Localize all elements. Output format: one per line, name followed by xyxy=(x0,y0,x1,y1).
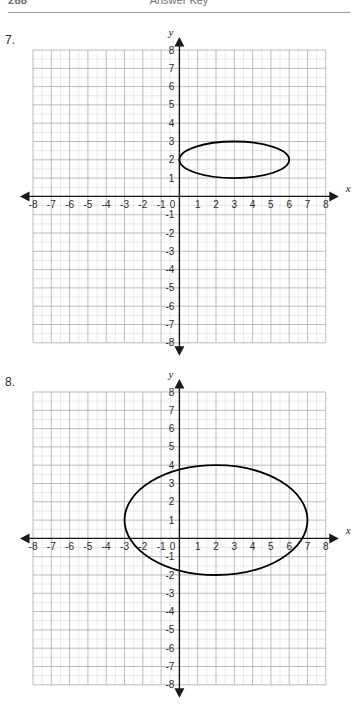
y-tick-label: -8 xyxy=(165,337,174,348)
x-tick-label: -5 xyxy=(83,541,92,552)
y-tick-label: -7 xyxy=(165,661,174,672)
running-header: 288 Answer Key xyxy=(0,0,358,16)
y-tick-label: 6 xyxy=(169,423,175,434)
x-tick-label: -2 xyxy=(138,199,147,210)
x-tick-label: -4 xyxy=(102,541,111,552)
x-tick-label: -8 xyxy=(29,199,38,210)
x-tick-label: 4 xyxy=(250,541,256,552)
y-tick-label: -8 xyxy=(165,679,174,690)
y-tick-label: 8 xyxy=(169,45,175,56)
x-tick-label: 1 xyxy=(195,541,201,552)
y-tick-label: 4 xyxy=(169,460,175,471)
x-tick-label: -3 xyxy=(120,541,129,552)
y-tick-label: -3 xyxy=(165,246,174,257)
y-tick-label: 7 xyxy=(169,63,175,74)
y-tick-label: -4 xyxy=(165,606,174,617)
x-tick-label: 5 xyxy=(268,541,274,552)
x-tick-label: -7 xyxy=(47,541,56,552)
y-tick-label: 3 xyxy=(169,478,175,489)
x-tick-label: -8 xyxy=(29,541,38,552)
y-tick-label: -1 xyxy=(165,551,174,562)
x-tick-label: 8 xyxy=(323,199,329,210)
y-tick-label: 5 xyxy=(169,99,175,110)
x-tick-label: 8 xyxy=(323,541,329,552)
y-tick-label: -6 xyxy=(165,643,174,654)
x-axis-label: x xyxy=(345,524,351,536)
y-tick-label: 8 xyxy=(169,387,175,398)
answer-key-page: 288 Answer Key 7. -8-7-6-5-4-3-2-1012345… xyxy=(0,0,358,727)
x-tick-label: -4 xyxy=(102,199,111,210)
y-tick-label: 7 xyxy=(169,405,175,416)
y-tick-label: -2 xyxy=(165,570,174,581)
x-tick-label: 6 xyxy=(286,199,292,210)
x-axis-label: x xyxy=(345,182,351,194)
x-tick-label: -6 xyxy=(65,541,74,552)
graph-7: -8-7-6-5-4-3-2-101234567887654321-1-2-3-… xyxy=(0,30,358,370)
x-tick-label: 5 xyxy=(268,199,274,210)
x-tick-label: 3 xyxy=(232,199,238,210)
header-rule xyxy=(8,12,350,13)
x-tick-label: 1 xyxy=(195,199,201,210)
x-tick-label: -5 xyxy=(83,199,92,210)
y-tick-label: 5 xyxy=(169,441,175,452)
y-axis-label: y xyxy=(167,30,173,38)
y-tick-label: -3 xyxy=(165,588,174,599)
y-tick-label: 6 xyxy=(169,81,175,92)
coordinate-plane-7: -8-7-6-5-4-3-2-101234567887654321-1-2-3-… xyxy=(0,30,358,370)
y-tick-label: -1 xyxy=(165,209,174,220)
y-tick-label: -2 xyxy=(165,228,174,239)
y-tick-label: -5 xyxy=(165,282,174,293)
y-axis-label: y xyxy=(167,372,173,380)
y-tick-label: 2 xyxy=(169,154,175,165)
x-tick-label: 3 xyxy=(232,541,238,552)
x-tick-label: 4 xyxy=(250,199,256,210)
y-tick-label: 1 xyxy=(169,173,175,184)
coordinate-plane-8: -8-7-6-5-4-3-2-101234567887654321-1-2-3-… xyxy=(0,372,358,712)
x-tick-label: -7 xyxy=(47,199,56,210)
y-tick-label: -4 xyxy=(165,264,174,275)
y-tick-label: -7 xyxy=(165,319,174,330)
y-tick-label: 2 xyxy=(169,496,175,507)
header-kicker: Answer Key xyxy=(0,0,358,6)
x-tick-label: -3 xyxy=(120,199,129,210)
y-tick-label: -5 xyxy=(165,624,174,635)
y-tick-label: 4 xyxy=(169,118,175,129)
x-tick-label: 2 xyxy=(213,199,219,210)
y-tick-label: -6 xyxy=(165,301,174,312)
x-tick-label: 2 xyxy=(213,541,219,552)
y-tick-label: 3 xyxy=(169,136,175,147)
graph-8: -8-7-6-5-4-3-2-101234567887654321-1-2-3-… xyxy=(0,372,358,712)
x-tick-label: -6 xyxy=(65,199,74,210)
x-tick-label: 7 xyxy=(305,199,311,210)
x-tick-label: 7 xyxy=(305,541,311,552)
y-tick-label: 1 xyxy=(169,515,175,526)
